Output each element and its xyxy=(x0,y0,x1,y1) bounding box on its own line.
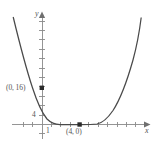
x-tick-label-1: 1 xyxy=(46,127,50,135)
parabola-curve xyxy=(13,17,141,125)
y-axis-arrowhead xyxy=(39,12,45,19)
x-axis-label: x xyxy=(145,127,148,135)
graph-canvas xyxy=(0,0,155,147)
parabola-figure: y x (0, 16) 4 1 (4, 0) xyxy=(0,0,155,147)
y-tick-label-4: 4 xyxy=(32,111,36,119)
y-axis-label: y xyxy=(35,10,38,18)
y-axis-group xyxy=(39,12,45,140)
vertex-label: (4, 0) xyxy=(66,128,82,136)
y-intercept-label: (0, 16) xyxy=(6,84,25,92)
point-marker-y-intercept xyxy=(40,86,44,90)
